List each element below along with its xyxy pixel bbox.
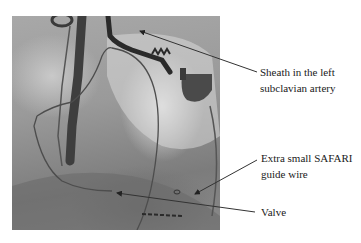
label-guidewire-line2: guide wire [261, 166, 352, 182]
label-sheath-line2: subclavian artery [260, 80, 335, 96]
label-sheath-line1: Sheath in the left [260, 64, 335, 80]
label-guidewire: Extra small SAFARI guide wire [261, 150, 352, 182]
fluoroscopy-image [12, 16, 220, 230]
label-valve-line1: Valve [261, 204, 286, 220]
fluoroscopy-structures [12, 16, 220, 230]
label-guidewire-line1: Extra small SAFARI [261, 150, 352, 166]
figure: Sheath in the left subclavian artery Ext… [0, 0, 361, 243]
label-valve: Valve [261, 204, 286, 220]
label-sheath: Sheath in the left subclavian artery [260, 64, 335, 96]
